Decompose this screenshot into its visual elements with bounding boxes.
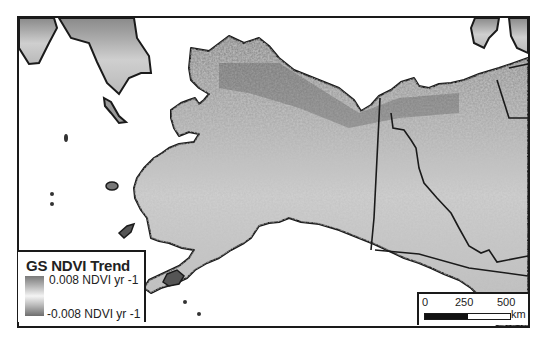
scale-bar: 0 250 500 km [417,292,528,325]
scale-bar-black-segment [425,314,468,319]
scale-bar-graphic [424,313,511,320]
legend-low-label: -0.008 NDVI yr -1 [47,307,140,321]
scale-tick-0: 0 [422,296,428,308]
scale-tick-500: 500 [497,296,515,308]
legend-color-ramp [25,276,44,316]
legend-high-label: 0.008 NDVI yr -1 [49,273,138,287]
chukotka-landmass [19,18,151,94]
scale-unit: km [511,308,526,320]
scale-tick-250: 250 [455,296,473,308]
legend-title: GS NDVI Trend [26,257,130,274]
legend: GS NDVI Trend 0.008 NDVI yr -1 -0.008 ND… [18,250,146,322]
